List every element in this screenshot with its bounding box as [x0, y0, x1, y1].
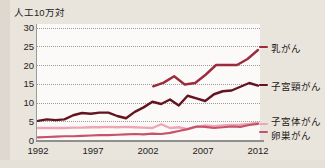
line-cervical	[38, 83, 258, 121]
legend-stub-cervical	[259, 84, 268, 86]
line-uterine-corpus	[38, 123, 258, 129]
legend-label-uterine: 子宮体がん	[271, 114, 321, 128]
legend-label-ovarian: 卵巣がん	[271, 128, 311, 142]
legend-stub-ovarian	[259, 131, 268, 133]
legend-stub-uterine	[259, 123, 268, 125]
line-breast	[153, 50, 258, 86]
legend-label-cervical: 子宮頸がん	[271, 79, 321, 93]
legend-stub-breast	[259, 46, 268, 48]
legend-label-breast: 乳がん	[271, 41, 301, 55]
chart-container: 人工10万対 30 25 20 15 10 5 0 1992 1997 2002…	[0, 0, 325, 168]
